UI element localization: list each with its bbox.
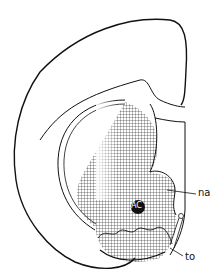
label-to: to bbox=[185, 252, 195, 262]
brain-section-drawing bbox=[0, 0, 224, 277]
label-ac: AC bbox=[131, 202, 142, 210]
label-na: na bbox=[198, 188, 210, 198]
